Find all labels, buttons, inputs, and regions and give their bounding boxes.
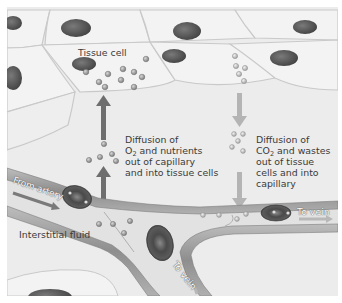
diffusion-in-line-1: Diffusion of: [125, 134, 218, 145]
label-to-vein-right: To vein: [297, 206, 330, 217]
diffusion-out-line-1: Diffusion of: [256, 134, 330, 145]
co2-symbol: CO: [256, 145, 270, 156]
diffusion-out-line-2: CO2 and wastes: [256, 145, 330, 156]
label-diffusion-out: Diffusion of CO2 and wastes out of tissu…: [256, 134, 330, 189]
label-diffusion-in: Diffusion of O2 and nutrients out of cap…: [125, 134, 218, 178]
diffusion-out-line-4: cells and into: [256, 167, 330, 178]
nutrients-text: and nutrients: [137, 145, 203, 156]
label-tissue-cell: Tissue cell: [78, 47, 127, 58]
capillary-exchange-diagram: Tissue cell Diffusion of O2 and nutrient…: [7, 7, 338, 296]
diffusion-in-line-3: out of capillary: [125, 156, 218, 167]
diffusion-out-line-5: capillary: [256, 178, 330, 189]
diffusion-in-line-2: O2 and nutrients: [125, 145, 218, 156]
wastes-text: and wastes: [274, 145, 330, 156]
diffusion-in-line-4: and into tissue cells: [125, 167, 218, 178]
label-interstitial-fluid: Interstitial fluid: [19, 229, 90, 240]
diffusion-out-line-3: out of tissue: [256, 156, 330, 167]
